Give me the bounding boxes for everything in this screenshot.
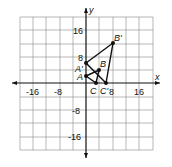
tick-x: 16 (134, 87, 144, 97)
point-label: C (90, 86, 97, 96)
point-label: B (100, 59, 106, 69)
tick-x: -8 (54, 87, 62, 97)
arrow-up-icon (84, 8, 88, 13)
tick-y: -16 (68, 132, 81, 142)
point-label: A' (74, 64, 83, 74)
triangle-original (86, 70, 99, 83)
axes (12, 8, 160, 158)
tick-x: -16 (26, 87, 39, 97)
tick-y: 16 (73, 26, 83, 36)
tick-y: 8 (78, 53, 83, 63)
y-axis-label: y (88, 5, 94, 15)
point-label: C' (100, 86, 108, 96)
arrow-down-icon (84, 153, 88, 158)
x-axis-label: x (154, 72, 160, 82)
point-label: B' (114, 33, 122, 43)
tick-x: 8 (109, 87, 114, 97)
arrow-left-icon (12, 81, 17, 85)
tick-y: -8 (72, 106, 80, 116)
coordinate-plane: x y -16 -8 8 16 16 8 -8 -16 A B C A' B' … (0, 0, 172, 167)
